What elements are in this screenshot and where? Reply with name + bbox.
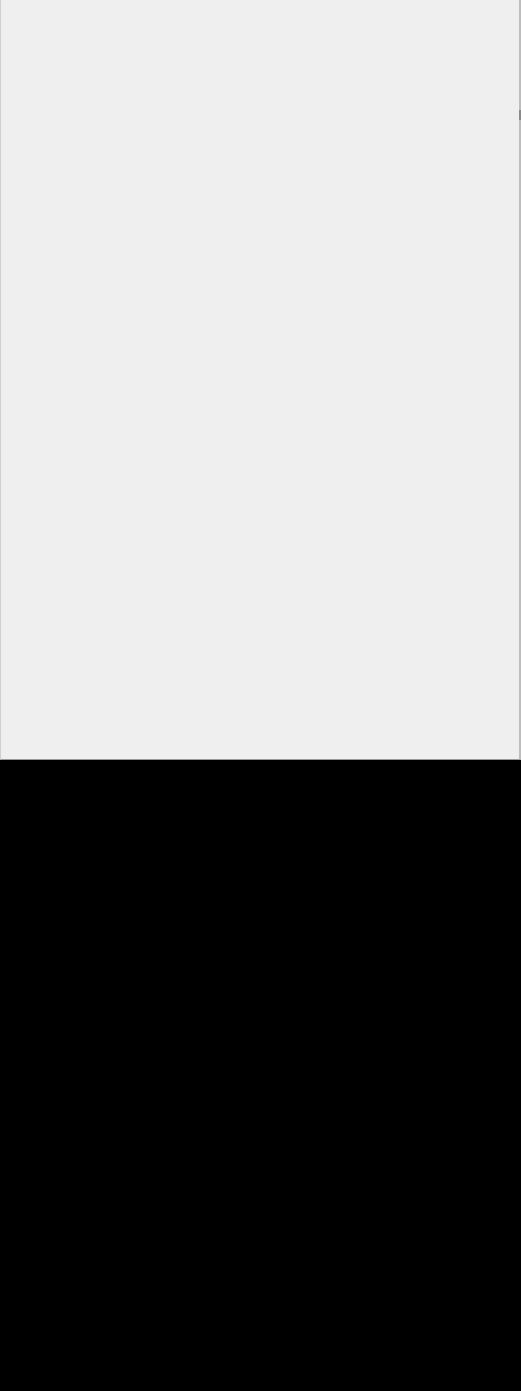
black-empty-region [0, 760, 521, 1391]
screen [0, 0, 521, 1391]
blank-content-panel [0, 0, 521, 760]
